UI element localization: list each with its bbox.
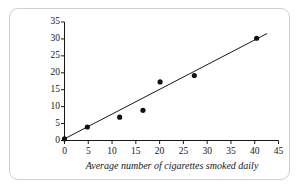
data-point [117, 115, 122, 120]
x-tick-label: 20 [155, 147, 165, 157]
data-point [254, 36, 259, 41]
y-tick-label: 20 [40, 68, 60, 78]
plot-area: 05101520253035 051015202530354045 Annual… [0, 0, 301, 192]
data-point [85, 124, 90, 129]
y-tick-label: 10 [40, 102, 60, 112]
x-tick-label: 15 [131, 147, 141, 157]
x-tick-label: 45 [274, 147, 284, 157]
data-point [140, 108, 145, 113]
x-tick-label: 5 [86, 147, 91, 157]
y-tick-label: 0 [40, 136, 60, 146]
x-tick-label: 30 [202, 147, 212, 157]
x-tick-label: 0 [62, 147, 67, 157]
y-tick-label: 15 [40, 85, 60, 95]
y-tick-label: 5 [40, 119, 60, 129]
data-point [62, 136, 67, 141]
x-tick-label: 25 [179, 147, 189, 157]
data-point [158, 79, 163, 84]
y-tick-label: 30 [40, 34, 60, 44]
trend-line [65, 34, 268, 139]
y-tick-label: 35 [40, 17, 60, 27]
x-axis-title: Average number of cigarettes smoked dail… [64, 160, 280, 171]
data-point [192, 73, 197, 78]
x-tick-label: 10 [107, 147, 117, 157]
axes [65, 22, 279, 141]
chart-page: 05101520253035 051015202530354045 Annual… [0, 0, 301, 192]
regression-line [65, 34, 268, 139]
y-tick-label: 25 [40, 51, 60, 61]
tick-marks [61, 22, 279, 144]
x-tick-label: 40 [250, 147, 260, 157]
x-tick-label: 35 [226, 147, 236, 157]
